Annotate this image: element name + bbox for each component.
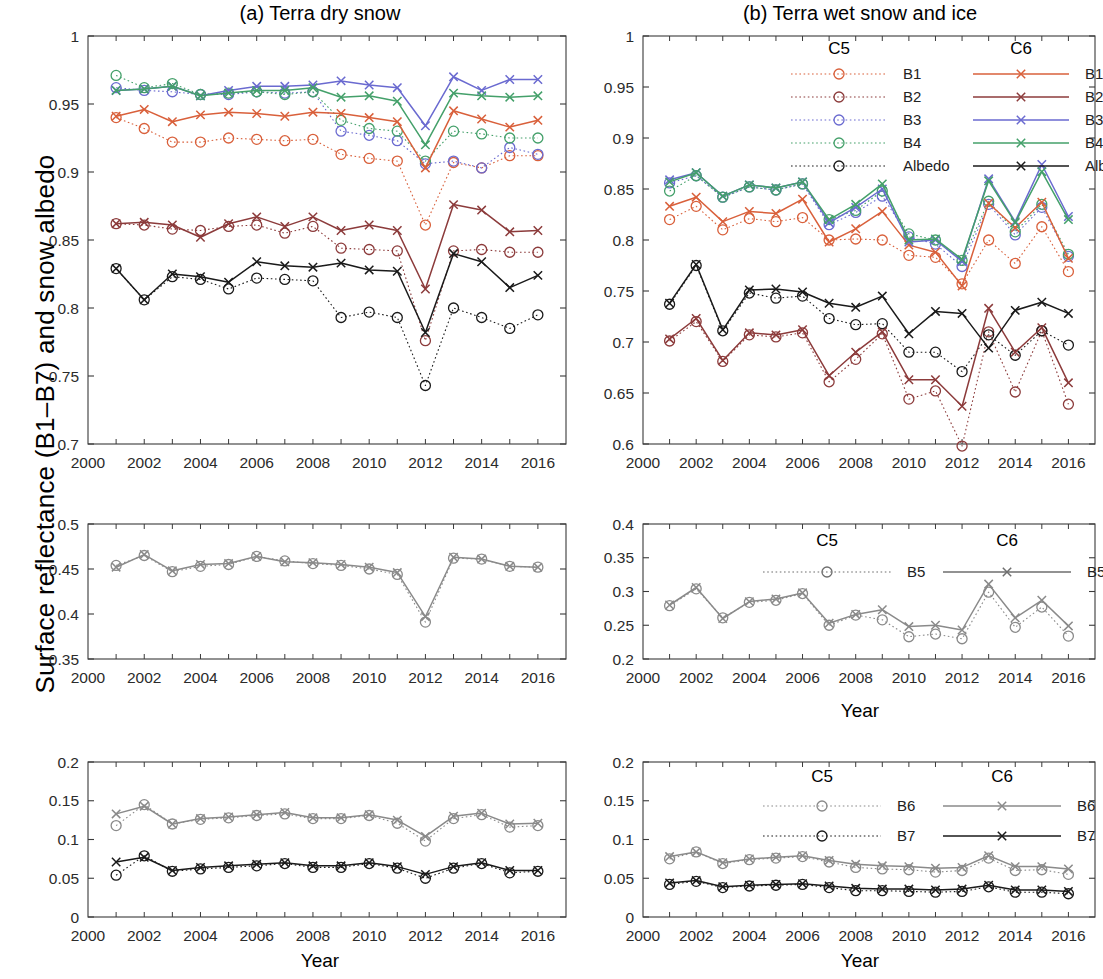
legend-top-right: C5C6B1B1B2B2B3B3B4B4AlbedoAlbedo [791, 39, 1103, 174]
legend-header-c5: C5 [816, 531, 838, 550]
data-point [252, 273, 262, 283]
data-point [420, 836, 430, 846]
x-tick-label: 2012 [408, 669, 442, 686]
x-tick-label: 2000 [626, 669, 661, 686]
legend-label-c5-b2: B2 [903, 88, 921, 105]
panel-middle-right: 0.20.250.30.350.420002002200420062008201… [555, 510, 1103, 690]
y-tick-label: 0 [625, 909, 634, 926]
data-point [984, 235, 994, 245]
data-point [851, 234, 861, 244]
data-point [878, 180, 886, 188]
panel-bottom-left: 00.050.10.150.22000200220042006200820102… [0, 748, 600, 948]
data-point [309, 213, 317, 221]
data-point [878, 207, 886, 215]
data-point [1010, 258, 1020, 268]
x-tick-label: 2006 [239, 927, 273, 944]
series-c5-b1 [665, 201, 1074, 289]
y-tick-label: 0.6 [612, 436, 634, 453]
data-point [280, 809, 290, 819]
data-point [477, 129, 487, 139]
x-tick-label: 2014 [998, 454, 1033, 471]
y-tick-label: 0.7 [57, 436, 79, 453]
series-c6-b7 [112, 853, 542, 878]
series-line [116, 254, 538, 333]
series-c6-albedo [665, 260, 1072, 352]
x-tick-label: 2002 [679, 454, 713, 471]
data-point [878, 292, 886, 300]
data-point [1038, 596, 1046, 604]
x-axis-label-bottom-left: Year [80, 950, 560, 972]
data-point [308, 221, 318, 231]
x-tick-label: 2014 [998, 669, 1033, 686]
data-point [1063, 340, 1073, 350]
x-tick-label: 2010 [352, 927, 387, 944]
series-line [670, 881, 1069, 892]
data-point [336, 243, 346, 253]
x-tick-label: 2004 [732, 454, 767, 471]
y-tick-label: 0.65 [604, 385, 634, 402]
x-tick-label: 2012 [945, 454, 979, 471]
data-point [449, 303, 459, 313]
y-tick-label: 0.2 [612, 754, 634, 771]
x-tick-label: 2008 [296, 927, 330, 944]
data-point [533, 821, 543, 831]
x-tick-label: 2016 [1051, 927, 1085, 944]
x-tick-label: 2002 [127, 669, 161, 686]
x-tick-label: 2006 [239, 454, 273, 471]
data-point [719, 356, 727, 364]
x-tick-label: 2004 [732, 927, 767, 944]
x-tick-label: 2012 [408, 927, 442, 944]
x-tick-label: 2010 [892, 927, 927, 944]
x-tick-label: 2004 [183, 669, 218, 686]
data-point [420, 336, 430, 346]
y-tick-label: 0.85 [604, 181, 634, 198]
panel-bottom-right: 00.050.10.150.22000200220042006200820102… [555, 748, 1103, 948]
data-point [196, 233, 204, 241]
legend-label-c5-b1: B1 [903, 65, 921, 82]
x-tick-label: 2010 [892, 669, 927, 686]
x-tick-label: 2004 [183, 454, 218, 471]
series-c5-albedo [111, 264, 543, 391]
y-tick-label: 0.45 [49, 561, 79, 578]
data-point [825, 371, 833, 379]
y-tick-label: 1 [70, 28, 79, 45]
y-tick-label: 1 [625, 28, 634, 45]
data-point [1010, 387, 1020, 397]
x-tick-label: 2010 [352, 454, 387, 471]
x-tick-label: 2000 [626, 454, 661, 471]
data-point [1064, 309, 1072, 317]
x-tick-label: 2016 [521, 454, 555, 471]
data-point [364, 245, 374, 255]
legend-label-c6-b3: B3 [1085, 111, 1103, 128]
data-point [1038, 324, 1046, 332]
data-point [140, 296, 148, 304]
x-tick-label: 2004 [183, 927, 218, 944]
data-point [958, 402, 966, 410]
x-tick-label: 2002 [679, 669, 713, 686]
y-tick-label: 0.2 [57, 754, 79, 771]
data-point [477, 258, 485, 266]
data-point [852, 348, 860, 356]
data-point [421, 613, 429, 621]
series-line [116, 857, 538, 874]
legend-header-c5: C5 [811, 767, 833, 786]
series-line [116, 86, 538, 145]
legend-header-c6: C6 [996, 531, 1018, 550]
legend-label-c6-b2: B2 [1085, 88, 1103, 105]
legend-label-c6-b1: B1 [1085, 65, 1103, 82]
y-tick-label: 0.2 [612, 651, 634, 668]
y-tick-label: 0.15 [604, 792, 634, 809]
data-point [1011, 218, 1019, 226]
series-c6-b7 [665, 876, 1072, 895]
x-tick-label: 2006 [239, 669, 273, 686]
data-point [665, 299, 673, 307]
y-tick-label: 0 [70, 909, 79, 926]
y-tick-label: 0.3 [612, 583, 634, 600]
y-tick-label: 0.35 [49, 651, 79, 668]
series-line [670, 265, 1069, 349]
x-tick-label: 2002 [679, 927, 713, 944]
y-tick-label: 0.8 [57, 300, 79, 317]
x-tick-label: 2014 [464, 927, 499, 944]
x-tick-label: 2014 [998, 927, 1033, 944]
x-tick-label: 2016 [521, 669, 555, 686]
